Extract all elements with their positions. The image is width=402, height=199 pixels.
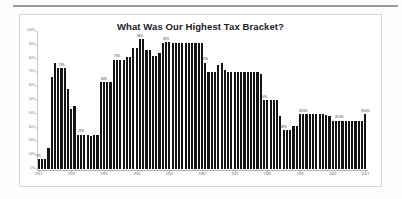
bar: [142, 39, 144, 169]
bar: [155, 56, 157, 169]
bar: [296, 126, 298, 169]
screenshot-root: What Was Our Highest Tax Bracket? 0%10%2…: [0, 0, 402, 199]
bar: [266, 100, 268, 169]
bar: [361, 121, 363, 169]
bar: [73, 106, 75, 169]
bar: [250, 72, 252, 169]
y-axis-tick-label: 20%: [29, 140, 35, 143]
y-axis-tick-label: 90%: [29, 43, 35, 46]
y-axis-tick-mark: [35, 86, 37, 87]
bar: [83, 135, 85, 170]
bar: [240, 72, 242, 169]
bar: [113, 60, 115, 169]
bar: [165, 42, 167, 169]
bar: [230, 72, 232, 169]
x-axis-tick-label: 1933: [100, 173, 107, 176]
bar-value-label: 63%: [101, 78, 107, 81]
bar: [188, 43, 190, 169]
bar: [96, 135, 98, 170]
bar: [299, 114, 301, 169]
top-divider-rule: [13, 5, 398, 7]
bar: [41, 159, 43, 169]
bar: [289, 130, 291, 169]
bar: [221, 63, 223, 169]
bar: [100, 82, 102, 169]
bar: [201, 43, 203, 169]
bar-value-label: 50%: [261, 96, 267, 99]
bar: [341, 121, 343, 169]
x-axis-tick-label: 1963: [198, 173, 205, 176]
x-axis-tick-label: 1973: [231, 173, 238, 176]
x-axis-tick-label: 2013: [362, 173, 369, 176]
bar: [292, 126, 294, 169]
bar: [263, 100, 265, 169]
y-axis-tick-mark: [35, 58, 37, 59]
bar: [57, 68, 59, 169]
bar: [351, 121, 353, 169]
y-axis-tick-label: 50%: [29, 98, 35, 101]
bar: [227, 72, 229, 169]
y-axis-tick-mark: [35, 72, 37, 73]
bar: [178, 43, 180, 169]
x-axis-tick-label: 1913: [35, 173, 42, 176]
bar: [260, 74, 262, 169]
bar: [322, 114, 324, 169]
y-axis-tick-mark: [35, 141, 37, 142]
bar-value-label: 79%: [114, 55, 120, 58]
x-axis-tick-label: 1943: [133, 173, 140, 176]
y-axis-tick-label: 80%: [29, 57, 35, 60]
bar: [152, 56, 154, 169]
bar: [175, 43, 177, 169]
bar: [77, 135, 79, 170]
bar: [93, 135, 95, 170]
bar: [224, 70, 226, 169]
bar: [358, 121, 360, 169]
y-axis-tick-label: 10%: [29, 154, 35, 157]
bar: [279, 116, 281, 169]
bar: [234, 72, 236, 169]
bar: [204, 63, 206, 169]
bar: [247, 72, 249, 169]
x-axis-tick-label: 1983: [264, 173, 271, 176]
y-axis-tick-label: 30%: [29, 126, 35, 129]
bar: [44, 159, 46, 169]
bar: [103, 82, 105, 169]
bar: [354, 121, 356, 169]
y-axis-tick-label: 100%: [27, 29, 35, 32]
bar: [126, 57, 128, 169]
bar: [214, 72, 216, 169]
bar: [286, 130, 288, 169]
bar: [315, 114, 317, 169]
bar: [64, 68, 66, 169]
y-axis-tick-mark: [35, 127, 37, 128]
bar: [136, 48, 138, 169]
bar: [335, 121, 337, 169]
x-axis-tick-label: 1993: [296, 173, 303, 176]
bar: [51, 77, 53, 169]
x-axis-tick-label: 2003: [329, 173, 336, 176]
bar: [123, 60, 125, 169]
bar: [256, 72, 258, 169]
bar: [243, 72, 245, 169]
bar: [309, 114, 311, 169]
bar: [47, 148, 49, 169]
bar: [70, 109, 72, 169]
bar: [109, 82, 111, 169]
bar: [181, 43, 183, 169]
bar-value-label: 7%: [36, 155, 40, 158]
x-axis-tick-label: 1953: [166, 173, 173, 176]
bar: [237, 72, 239, 169]
bar: [90, 136, 92, 169]
bar: [253, 72, 255, 169]
bar: [116, 60, 118, 169]
bar-value-label: 39.6%: [361, 110, 370, 113]
bar: [191, 43, 193, 169]
bar: [106, 82, 108, 169]
bar: [312, 114, 314, 169]
y-axis-tick-mark: [35, 100, 37, 101]
bar: [198, 43, 200, 169]
bar: [162, 43, 164, 169]
bar: [283, 130, 285, 169]
bar: [139, 39, 141, 169]
bar-value-label: 25%: [78, 130, 84, 133]
